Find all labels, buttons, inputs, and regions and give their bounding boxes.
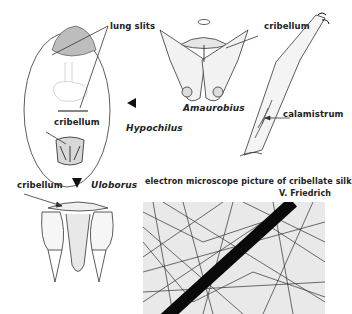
hypochilus-arrow-icon (127, 98, 136, 108)
label-credit: V. Friedrich (279, 189, 331, 198)
label-uloborus: Uloborus (91, 180, 137, 190)
label-cribellum-uloborus: cribellum (17, 180, 63, 190)
label-calamistrum: calamistrum (283, 109, 344, 119)
hypochilus-spinnerets (46, 132, 84, 165)
label-amaurobius: Amaurobius (183, 103, 245, 113)
leg-drawing (240, 13, 329, 156)
silk-main-fiber (163, 202, 293, 314)
label-cribellum-hypochilus: cribellum (54, 117, 100, 127)
uloborus-drawing (24, 194, 113, 282)
label-micrograph-caption: electron microscope picture of cribellat… (145, 177, 352, 186)
label-hypochilus: Hypochilus (126, 123, 183, 133)
label-cribellum-leg: cribellum (264, 21, 310, 31)
label-lung-slits: lung slits (110, 21, 155, 31)
electron-micrograph (143, 202, 325, 314)
amaurobius-drawing (160, 20, 258, 101)
